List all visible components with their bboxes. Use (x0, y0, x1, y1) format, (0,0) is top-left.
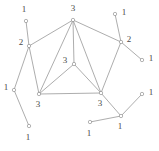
graph-edge (29, 46, 39, 94)
graph-node[interactable] (24, 19, 27, 22)
graph-node[interactable] (12, 88, 15, 91)
graph-figure: 13122131331111 (0, 0, 159, 151)
graph-edge (101, 42, 121, 93)
graph-edge (115, 14, 121, 42)
graph-node-label: 3 (98, 98, 103, 108)
graph-node[interactable] (99, 91, 102, 94)
graph-edge (39, 64, 74, 94)
graph-edge (14, 46, 29, 90)
graph-edge (90, 116, 121, 122)
graph-node[interactable] (27, 44, 30, 47)
graph-node-label: 3 (36, 99, 41, 109)
graph-node[interactable] (27, 124, 30, 127)
graph-node-label: 1 (149, 87, 154, 97)
graph-edge (121, 42, 142, 60)
graph-node-label: 1 (26, 132, 31, 142)
graph-node[interactable] (119, 40, 122, 43)
graph-node[interactable] (71, 18, 74, 21)
graph-edge (74, 64, 101, 93)
graph-node-label: 1 (4, 82, 9, 92)
graph-canvas: 13122131331111 (0, 0, 159, 151)
graph-node-label: 1 (118, 121, 123, 131)
graph-edge (14, 90, 29, 126)
graph-edge (39, 20, 73, 94)
graph-node-label: 1 (22, 4, 27, 14)
graph-node-label: 1 (87, 128, 92, 138)
edge-layer (14, 14, 142, 126)
graph-edge (29, 20, 73, 46)
graph-node-label: 1 (149, 53, 154, 63)
graph-node[interactable] (119, 114, 122, 117)
graph-node[interactable] (88, 120, 91, 123)
graph-edge (26, 21, 29, 46)
graph-node-label: 2 (127, 34, 132, 44)
graph-node-label: 3 (63, 55, 68, 65)
graph-node[interactable] (113, 12, 116, 15)
node-layer (12, 12, 143, 127)
graph-edge (101, 93, 121, 116)
graph-node-label: 1 (122, 7, 127, 17)
graph-edge (73, 20, 74, 64)
graph-edge (39, 93, 101, 94)
graph-edge (121, 94, 142, 116)
graph-node-label: 3 (71, 3, 76, 13)
graph-node[interactable] (140, 58, 143, 61)
graph-node[interactable] (37, 92, 40, 95)
graph-node[interactable] (72, 62, 75, 65)
graph-node-label: 2 (19, 37, 24, 47)
graph-node[interactable] (140, 92, 143, 95)
